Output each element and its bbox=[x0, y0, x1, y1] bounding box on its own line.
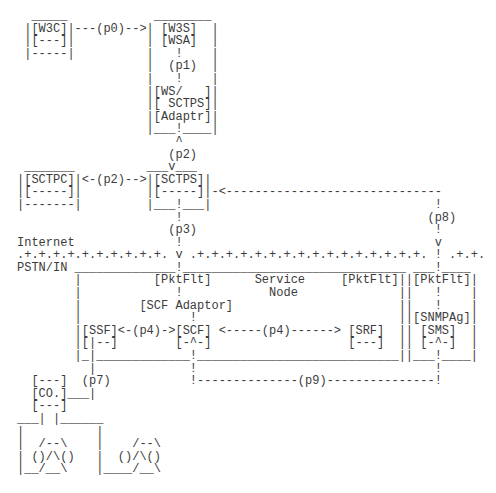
diagram-line-telephones: |__/__\ |____/__\ bbox=[17, 463, 485, 476]
diagram-line-snmpag: | ! ||[SNMPAg]| bbox=[17, 312, 485, 325]
diagram-line-p7-p9: [---] (p7) !--------------(p9)----------… bbox=[17, 375, 485, 388]
diagram-line: | ! | bbox=[17, 73, 485, 86]
ascii-diagram-canvas: _____ ________ |[W3C]|---(p0)-->| [W3S] … bbox=[0, 0, 496, 493]
diagram-line-central-office: [CO.]___| bbox=[17, 388, 485, 401]
diagram-line: _______ ___v___ bbox=[17, 161, 485, 174]
diagram-line: ^ bbox=[17, 136, 485, 149]
diagram-line-boundary: .+.+.+.+.+.+.+.+.+.+. v .+.+.+.+.+.+.+.+… bbox=[17, 249, 485, 262]
diagram-line: |-------| |___!___| ! bbox=[17, 199, 485, 212]
diagram-line-phone-wiring: ___| |______ bbox=[17, 413, 485, 426]
ascii-diagram: _____ ________ |[W3C]|---(p0)-->| [W3S] … bbox=[17, 10, 485, 476]
diagram-line-wsa: |[---]| | [WSA] | bbox=[17, 35, 485, 48]
diagram-line-sctps: |[ SCTPS]| bbox=[17, 98, 485, 111]
diagram-line-service-node-bottom: |_|_____________!_______________________… bbox=[17, 350, 485, 363]
diagram-line-p3: (p3) ! bbox=[17, 224, 485, 237]
diagram-line-top-borders: _____ ________ bbox=[17, 10, 485, 23]
diagram-line-telephones: | /--\ | /--\ bbox=[17, 438, 485, 451]
diagram-line-service-node: | ! Node || ! | bbox=[17, 287, 485, 300]
